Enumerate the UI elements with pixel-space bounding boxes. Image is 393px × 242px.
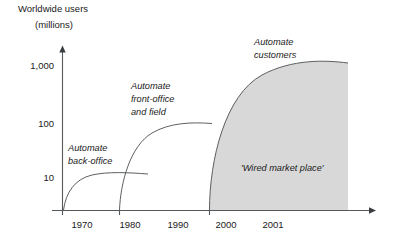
annotation-wired-market-place: 'Wired market place' [241,163,325,173]
y-tick-label-1000: 1,000 [30,60,54,71]
curve-label-automate-customers-line2: customers [254,50,297,60]
x-tick-label-1990: 1990 [167,219,188,230]
shaded-region-wired-market-place [210,61,349,210]
y-tick-label-100: 100 [38,118,54,129]
curve-label-automate-back-office-line2: back-office [68,156,112,166]
x-tick-label-1980: 1980 [119,219,140,230]
curve-label-automate-front-office-line3: and field [131,107,167,117]
x-tick-label-1970: 1970 [71,219,92,230]
chart-title-line2: (millions) [35,19,73,30]
x-tick-label-2000: 2000 [215,219,236,230]
chart-container: Worldwide users (millions) 1,000 100 10 … [0,0,393,242]
chart-title-line1: Worldwide users [18,3,88,14]
y-tick-label-10: 10 [43,172,54,183]
curve-label-automate-front-office-line2: front-office [131,94,174,104]
x-tick-label-2001: 2001 [262,219,283,230]
curve-automate-front-office-and-field [120,123,213,210]
curve-label-automate-front-office-line1: Automate [130,81,170,91]
x-axis-arrow-icon [369,207,376,214]
curve-label-automate-back-office-line1: Automate [67,143,107,153]
curve-automate-back-office [64,173,149,210]
s-curve-chart: Worldwide users (millions) 1,000 100 10 … [0,0,393,242]
y-axis-arrow-icon [59,46,65,53]
curve-label-automate-customers-line1: Automate [253,37,293,47]
